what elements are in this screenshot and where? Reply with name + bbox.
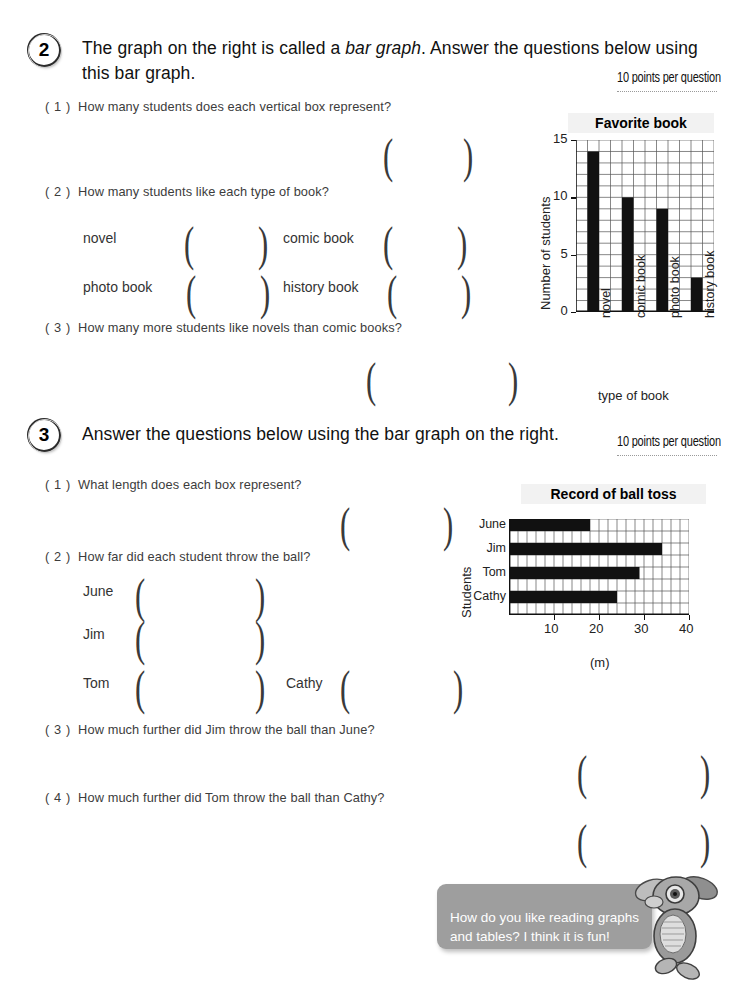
answer-blank-2-3-open[interactable]: ( [366,355,376,404]
chart-1-y-tickmark [571,312,576,313]
question-2-1: ( 1 ) How many students does each vertic… [45,99,391,114]
answer-blank-3-4-open[interactable]: ( [577,817,587,866]
chart-2-category-june: June [0,517,506,531]
answer-label-tom: Tom [83,675,109,691]
chart-2-x-tickmark [599,615,600,620]
answer-blank-history-close[interactable]: ) [461,268,471,317]
answer-label-photo-book: photo book [83,279,152,295]
question-3-1-text: What length does each box represent? [78,477,301,492]
chart-2-x-tick-20: 20 [589,621,603,636]
chart-2-category-jim: Jim [0,541,506,555]
answer-label-history-book: history book [283,279,358,295]
chart-2-x-tick-10: 10 [544,621,558,636]
section-badge-2: 2 [29,35,59,65]
points-note-3-underline [617,454,717,456]
worksheet-page: { "sections": [ { "number": "2", "title_… [0,0,749,996]
answer-blank-comic-close[interactable]: ) [457,219,467,268]
chart-2-category-cathy: Cathy [0,589,506,603]
chart-1-x-axis-label: type of book [598,388,669,403]
chart-2-record-of-ball-toss [509,519,689,615]
chart-1-category-history-book: history book [703,251,717,318]
answer-blank-comic-open[interactable]: ( [383,219,393,268]
question-3-4-number: ( 4 ) [45,790,71,805]
answer-blank-cathy-open[interactable]: ( [340,663,350,712]
chart-1-category-comic-book: comic book [634,255,648,318]
question-2-2-text: How many students like each type of book… [78,184,329,199]
mascot-svg [630,868,722,980]
answer-blank-novel-close[interactable]: ) [258,219,268,268]
chart-2-svg [509,519,689,615]
question-2-2: ( 2 ) How many students like each type o… [45,184,329,199]
points-note-2-underline [617,90,717,92]
chart-2-x-tick-30: 30 [634,621,648,636]
chart-2-x-tickmark [554,615,555,620]
question-3-3-number: ( 3 ) [45,722,71,737]
answer-blank-tom-open[interactable]: ( [135,663,145,712]
section-title-2-text: The graph on the right is called a bar g… [82,38,698,83]
answer-blank-3-3-close[interactable]: ) [700,748,710,797]
answer-blank-cathy-close[interactable]: ) [453,663,463,712]
chart-1-y-tick-15: 15 [553,131,567,146]
chart-2-x-tickmark [689,615,690,620]
points-note-3: 10 points per question [617,433,721,448]
chart-1-y-tick-10: 10 [553,188,567,203]
answer-blank-2-3-close[interactable]: ) [508,355,518,404]
chart-1-y-tick-0: 0 [561,303,568,318]
answer-blank-photo-close[interactable]: ) [260,268,270,317]
section-badge-3: 3 [29,420,59,450]
chart-1-category-novel: novel [599,288,613,318]
chart-1-y-tickmark [571,197,576,198]
chart-2-x-tickmark [644,615,645,620]
question-2-3-number: ( 3 ) [45,320,71,335]
question-2-1-number: ( 1 ) [45,99,71,114]
answer-blank-3-4-close[interactable]: ) [700,817,710,866]
speech-bubble-text: How do you like reading graphs and table… [450,908,650,946]
chart-2-x-tick-40: 40 [679,621,693,636]
question-2-3: ( 3 ) How many more students like novels… [45,320,402,335]
chart-1-title: Favorite book [568,113,714,133]
question-3-1: ( 1 ) What length does each box represen… [45,477,302,492]
answer-blank-novel-open[interactable]: ( [184,219,194,268]
answer-blank-jim-close[interactable]: ) [255,614,265,663]
answer-blank-tom-close[interactable]: ) [255,663,265,712]
section-title-3-text: Answer the questions below using the bar… [82,424,559,444]
question-2-1-text: How many students does each vertical box… [78,99,391,114]
question-3-1-number: ( 1 ) [45,477,71,492]
question-3-4-text: How much further did Tom throw the ball … [78,790,384,805]
chart-1-y-tickmark [571,255,576,256]
chart-2-bars [509,519,662,603]
question-3-3-text: How much further did Jim throw the ball … [78,722,375,737]
answer-blank-history-open[interactable]: ( [387,268,397,317]
answer-label-novel: novel [83,230,116,246]
answer-label-cathy: Cathy [286,675,323,691]
answer-label-comic-book: comic book [283,230,354,246]
answer-blank-jim-open[interactable]: ( [135,614,145,663]
chart-1-category-photo-book: photo book [668,256,682,318]
points-note-2: 10 points per question [617,69,721,84]
answer-label-jim: Jim [83,626,105,642]
chart-1-y-tickmark [571,140,576,141]
chart-2-x-axis-unit-label: (m) [590,655,610,670]
chart-2-title: Record of ball toss [521,484,706,504]
answer-blank-2-1-open[interactable]: ( [383,131,393,180]
answer-blank-photo-open[interactable]: ( [186,268,196,317]
question-2-2-number: ( 2 ) [45,184,71,199]
answer-blank-2-1-close[interactable]: ) [463,131,473,180]
answer-blank-3-3-open[interactable]: ( [577,748,587,797]
question-3-3: ( 3 ) How much further did Jim throw the… [45,722,375,737]
chart-2-category-tom: Tom [0,565,506,579]
question-2-3-text: How many more students like novels than … [78,320,402,335]
section-title-3: Answer the questions below using the bar… [82,422,642,447]
mascot-character-icon [630,868,722,984]
question-3-4: ( 4 ) How much further did Tom throw the… [45,790,385,805]
chart-1-y-axis-label: Number of students [538,197,553,310]
chart-1-y-tick-5: 5 [561,246,568,261]
